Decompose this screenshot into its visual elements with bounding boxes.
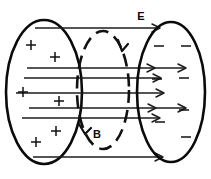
magnetic-loop-arrowhead-bottom <box>79 124 91 134</box>
plus-sign-icon <box>51 126 61 136</box>
electric-field-label: E <box>137 10 144 22</box>
field-line <box>29 104 186 112</box>
electric-field-lines <box>16 24 186 161</box>
plus-sign-icon <box>50 52 60 62</box>
positive-plate-outline <box>6 20 82 164</box>
plus-sign-icon <box>31 137 41 147</box>
plus-sign-icon <box>18 87 28 97</box>
field-line <box>16 89 164 97</box>
field-line <box>27 64 186 72</box>
field-line <box>24 74 161 82</box>
field-line <box>33 153 163 161</box>
physics-diagram-figure: E B <box>0 0 211 179</box>
plus-sign-icon <box>54 96 64 106</box>
magnetic-loop-arrowhead-top <box>118 40 128 51</box>
negative-plate-outline <box>137 22 205 162</box>
capacitor-field-diagram: E B <box>0 0 211 179</box>
magnetic-field-label: B <box>93 128 101 140</box>
negative-charge-glyphs <box>152 46 191 137</box>
plus-sign-icon <box>26 40 36 50</box>
field-line <box>35 24 160 32</box>
